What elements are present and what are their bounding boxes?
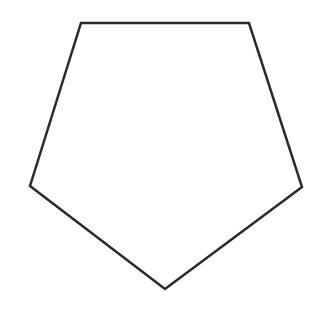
diagram-canvas (0, 0, 318, 328)
pentagon-shape (30, 23, 302, 289)
